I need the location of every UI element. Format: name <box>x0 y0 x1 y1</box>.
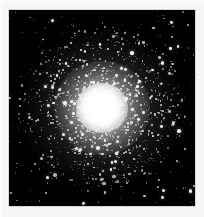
screenshot-root <box>0 0 204 217</box>
star-point <box>166 55 167 56</box>
night-sky-background <box>9 10 195 206</box>
star-point <box>21 84 23 86</box>
star-point <box>18 113 19 114</box>
star-point <box>148 172 150 174</box>
star-point <box>41 52 43 54</box>
star-point <box>74 184 75 185</box>
star-point <box>111 188 113 190</box>
star-point <box>179 135 181 137</box>
star-point <box>162 53 164 55</box>
star-point <box>97 28 98 29</box>
margin-highlight-top <box>0 0 204 3</box>
star-point <box>171 63 174 66</box>
star-point <box>150 173 151 174</box>
star-point <box>104 26 106 28</box>
star-point <box>118 29 119 30</box>
star-point <box>166 155 167 156</box>
star-point <box>174 70 176 72</box>
star-point <box>137 34 139 36</box>
astronomy-photo <box>9 10 195 206</box>
star-point <box>184 97 185 98</box>
star-point <box>184 116 186 118</box>
star-point <box>20 121 21 122</box>
star-point <box>19 105 21 107</box>
star-point <box>120 186 122 188</box>
star-point <box>53 173 56 176</box>
globular-cluster <box>17 23 187 193</box>
star-point <box>18 118 20 120</box>
star-point <box>19 98 22 101</box>
star-point <box>42 50 43 51</box>
star-point <box>163 158 164 159</box>
star-point <box>134 33 135 34</box>
star-point <box>184 115 185 116</box>
cluster-core <box>76 83 128 133</box>
margin-highlight-left <box>0 0 3 217</box>
star-point <box>181 131 183 133</box>
